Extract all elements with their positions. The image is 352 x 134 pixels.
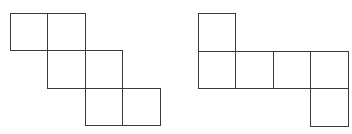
square-face (273, 51, 312, 90)
square-face (85, 88, 124, 127)
square-face (10, 13, 49, 52)
square-face (310, 88, 349, 127)
square-face (85, 50, 124, 89)
diagram-canvas (0, 0, 352, 134)
square-face (47, 13, 86, 52)
square-face (47, 50, 86, 89)
square-face (198, 13, 237, 52)
square-face (122, 88, 161, 127)
square-face (198, 51, 237, 90)
square-face (235, 51, 274, 90)
square-face (310, 51, 349, 90)
